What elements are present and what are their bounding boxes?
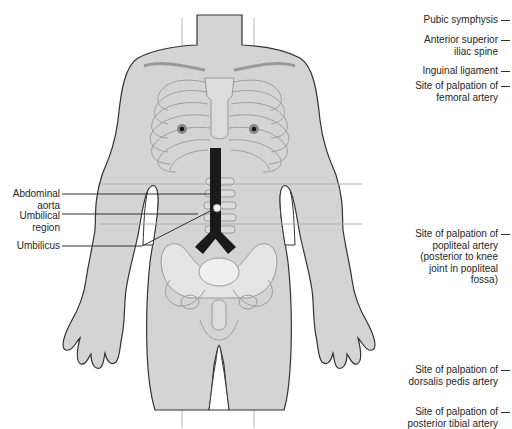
tick-pubic-symphysis — [501, 20, 510, 21]
tick-femoral-artery — [501, 86, 510, 87]
label-dorsalis-pedis-artery: Site of palpation of dorsalis pedis arte… — [380, 364, 498, 387]
label-pubic-symphysis: Pubic symphysis — [390, 14, 498, 26]
label-anterior-superior-iliac-spine: Anterior superior iliac spine — [390, 34, 498, 57]
label-umbilicus: Umbilicus — [2, 240, 60, 252]
umbilicus-dot — [213, 204, 221, 212]
tick-anterior-superior-iliac-spine — [501, 40, 510, 41]
right-nipple — [249, 124, 259, 134]
label-popliteal-artery: Site of palpation of popliteal artery (p… — [390, 228, 498, 286]
tick-inguinal-ligament — [501, 71, 510, 72]
tick-posterior-tibial-artery — [501, 412, 510, 413]
label-femoral-artery: Site of palpation of femoral artery — [390, 80, 498, 103]
label-umbilical-region: Umbilical region — [2, 210, 60, 233]
tick-dorsalis-pedis-artery — [501, 370, 510, 371]
label-abdominal-aorta: Abdominal aorta — [2, 188, 60, 211]
label-posterior-tibial-artery: Site of palpation of posterior tibial ar… — [380, 406, 498, 429]
left-nipple — [177, 124, 187, 134]
tick-popliteal-artery — [501, 234, 510, 235]
label-inguinal-ligament: Inguinal ligament — [390, 65, 498, 77]
